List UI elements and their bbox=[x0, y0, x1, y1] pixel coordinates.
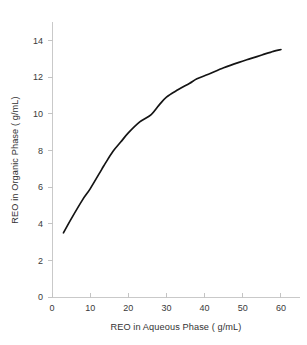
x-tick-label: 0 bbox=[49, 303, 54, 313]
x-tick-label: 10 bbox=[85, 303, 95, 313]
chart-background bbox=[0, 0, 307, 345]
y-tick-label: 12 bbox=[33, 72, 43, 82]
y-tick-label: 14 bbox=[33, 36, 43, 46]
chart-figure: 02468101214 0102030405060 REO in Aqueous… bbox=[0, 0, 307, 345]
x-tick-label: 20 bbox=[123, 303, 133, 313]
x-tick-label: 50 bbox=[238, 303, 248, 313]
y-tick-label: 6 bbox=[38, 182, 43, 192]
y-tick-label: 0 bbox=[38, 292, 43, 302]
y-axis-title: REO in Organic Phase ( g/mL) bbox=[10, 96, 20, 223]
x-tick-label: 40 bbox=[200, 303, 210, 313]
x-axis-title: REO in Aqueous Phase ( g/mL) bbox=[111, 322, 242, 332]
x-tick-label: 60 bbox=[276, 303, 286, 313]
y-tick-label: 2 bbox=[38, 256, 43, 266]
y-tick-label: 10 bbox=[33, 109, 43, 119]
x-tick-label: 30 bbox=[161, 303, 171, 313]
y-tick-label: 4 bbox=[38, 219, 43, 229]
y-tick-label: 8 bbox=[38, 146, 43, 156]
